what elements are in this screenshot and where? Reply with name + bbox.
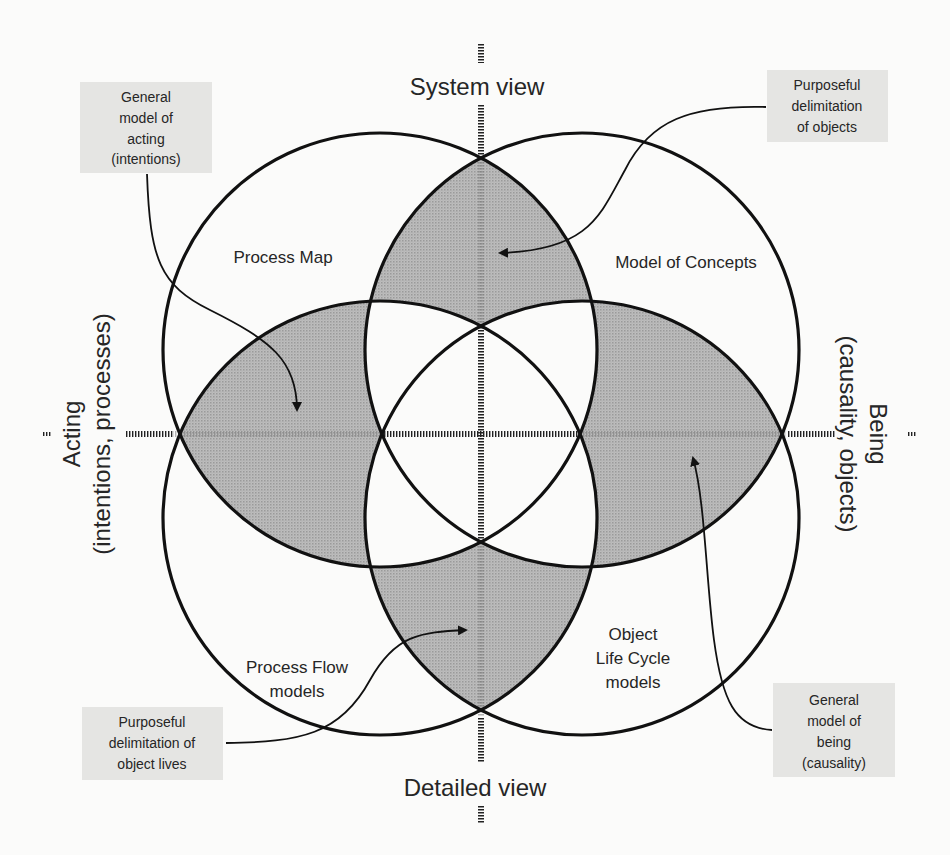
region-label-object-life-cycle: Object Life Cycle models [596,625,671,692]
callout-box-bottom-left: Purposeful delimitation of object lives [82,707,223,780]
axis-label-right-line2: (causality, objects) [835,336,862,533]
svg-text:General: General [121,89,171,105]
svg-text:of objects: of objects [797,119,857,135]
callout-box-top-left: General model of acting (intentions) [80,82,212,173]
callout-box-bottom-right: General model of being (causality) [773,683,895,777]
svg-text:models: models [270,682,325,701]
region-label-process-flow: Process Flow models [246,658,349,701]
svg-text:Life Cycle: Life Cycle [596,649,671,668]
svg-text:models: models [606,673,661,692]
svg-text:General: General [809,692,859,708]
svg-text:being: being [817,734,851,750]
svg-text:Purposeful: Purposeful [119,714,186,730]
region-label-process-map: Process Map [233,248,332,267]
svg-text:model of: model of [119,110,173,126]
svg-text:Process Flow: Process Flow [246,658,349,677]
svg-text:object lives: object lives [117,756,186,772]
axis-label-right-line1: Being [865,403,892,464]
svg-text:Object: Object [608,625,657,644]
axis-label-right: Being (causality, objects) [835,336,892,533]
svg-text:acting: acting [127,131,164,147]
callout-box-top-right: Purposeful delimitation of objects [767,70,888,142]
four-circle-diagram: System view Detailed view Acting (intent… [0,0,950,855]
svg-text:(causality): (causality) [802,755,866,771]
svg-text:delimitation of: delimitation of [109,735,195,751]
svg-text:Purposeful: Purposeful [794,77,861,93]
region-label-model-of-concepts: Model of Concepts [615,253,757,272]
axis-label-left: Acting (intentions, processes) [58,313,115,554]
axis-label-left-line1: Acting [58,401,85,468]
svg-text:model of: model of [807,713,861,729]
svg-text:(intentions): (intentions) [111,151,180,167]
axis-label-bottom: Detailed view [404,774,547,801]
axis-label-left-line2: (intentions, processes) [88,313,115,554]
axis-label-top: System view [410,73,545,100]
svg-text:delimitation: delimitation [792,98,863,114]
